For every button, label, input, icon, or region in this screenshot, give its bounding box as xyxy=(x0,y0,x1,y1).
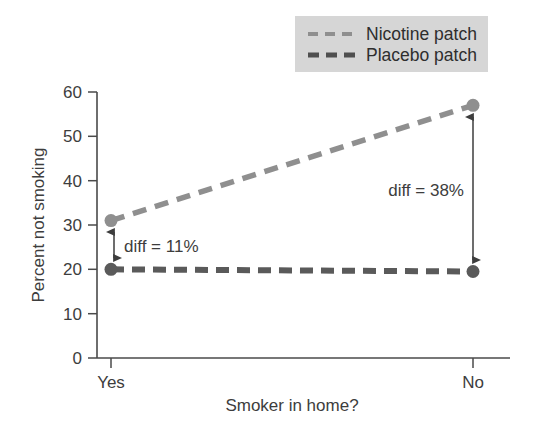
series-line-placebo xyxy=(111,269,473,271)
x-axis-title: Smoker in home? xyxy=(225,396,358,415)
y-tick-label-50: 50 xyxy=(63,127,82,146)
annotation-diff-no: diff = 38% xyxy=(388,117,473,260)
legend-label-nicotine: Nicotine patch xyxy=(366,24,477,44)
line-chart-canvas: Nicotine patch Placebo patch 0 10 xyxy=(0,0,542,423)
diff-label-no: diff = 38% xyxy=(388,181,464,200)
annotation-diff-yes: diff = 11% xyxy=(114,232,199,258)
data-point-placebo-no xyxy=(467,265,480,278)
y-tick-label-60: 60 xyxy=(63,83,82,102)
y-tick-label-40: 40 xyxy=(63,172,82,191)
legend: Nicotine patch Placebo patch xyxy=(295,16,488,72)
diff-label-yes: diff = 11% xyxy=(124,237,199,256)
y-tick-label-30: 30 xyxy=(63,216,82,235)
legend-label-placebo: Placebo patch xyxy=(366,45,477,65)
y-tick-label-0: 0 xyxy=(73,349,82,368)
series-line-nicotine xyxy=(111,105,473,220)
x-tick-label-no: No xyxy=(462,373,484,392)
x-tick-label-yes: Yes xyxy=(97,373,125,392)
data-point-nicotine-no xyxy=(467,99,480,112)
data-point-nicotine-yes xyxy=(105,214,118,227)
series-placebo-patch xyxy=(105,263,480,278)
axes: 0 10 20 30 40 50 60 Yes No Smoker in hom… xyxy=(29,83,510,415)
data-point-placebo-yes xyxy=(105,263,118,276)
series-nicotine-patch xyxy=(105,99,480,227)
y-tick-label-10: 10 xyxy=(63,305,82,324)
y-axis-title: Percent not smoking xyxy=(29,148,48,303)
chart-figure: Nicotine patch Placebo patch 0 10 xyxy=(0,0,542,423)
y-tick-label-20: 20 xyxy=(63,260,82,279)
